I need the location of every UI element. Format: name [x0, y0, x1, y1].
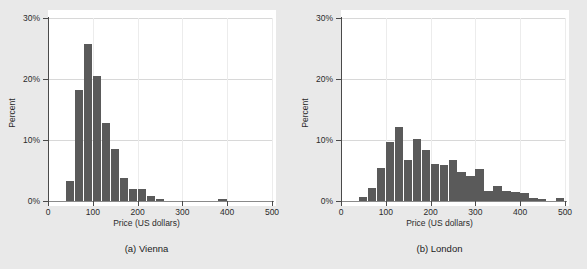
histogram-bar: [422, 150, 430, 201]
plot-area: [48, 18, 272, 201]
histogram-bar: [466, 176, 474, 201]
panel-caption: (a) Vienna: [0, 243, 293, 254]
histogram-bar: [129, 189, 137, 201]
histogram-bar: [457, 172, 465, 201]
y-axis-line: [48, 17, 49, 202]
x-tick-label: 400: [220, 207, 234, 217]
histogram-bar: [111, 149, 119, 201]
histogram-bar: [84, 44, 92, 201]
histogram-bar: [440, 165, 448, 201]
histogram-bar: [75, 90, 83, 201]
histogram-bar: [449, 160, 457, 201]
histogram-bar: [502, 191, 510, 201]
histogram-bars: [48, 18, 272, 201]
x-tick-label: 200: [424, 207, 438, 217]
figure-histograms: 0%10%20%30%0100200300400500 Percent Pric…: [0, 0, 587, 269]
histogram-bar: [93, 76, 101, 201]
plot-london: 0%10%20%30%0100200300400500 Percent Pric…: [293, 0, 586, 232]
histogram-bar: [431, 164, 439, 201]
histogram-bars: [341, 18, 565, 201]
panel-vienna: 0%10%20%30%0100200300400500 Percent Pric…: [0, 0, 293, 269]
x-tick-label: 400: [513, 207, 527, 217]
y-tick-label: 30%: [307, 13, 333, 23]
grid-line-vertical: [565, 18, 566, 201]
y-tick-label: 30%: [14, 13, 40, 23]
x-axis-title: Price (US dollars): [293, 218, 586, 228]
histogram-bar: [511, 192, 519, 201]
y-tick-label: 10%: [14, 135, 40, 145]
histogram-bar: [368, 188, 376, 201]
histogram-bar: [66, 181, 74, 201]
histogram-bar: [493, 186, 501, 201]
histogram-bar: [404, 160, 412, 201]
histogram-bar: [102, 123, 110, 201]
x-tick-label: 0: [339, 207, 344, 217]
x-axis-line: [47, 201, 274, 202]
x-tick-label: 300: [468, 207, 482, 217]
x-tick-label: 100: [379, 207, 393, 217]
histogram-bar: [386, 142, 394, 201]
histogram-bar: [395, 127, 403, 201]
histogram-bar: [138, 189, 146, 201]
x-tick-label: 200: [131, 207, 145, 217]
grid-line-vertical: [272, 18, 273, 201]
x-tick-label: 500: [265, 207, 279, 217]
panel-caption: (b) London: [293, 243, 586, 254]
y-tick-label: 10%: [307, 135, 333, 145]
plot-vienna: 0%10%20%30%0100200300400500 Percent Pric…: [0, 0, 293, 232]
y-tick-label: 20%: [14, 74, 40, 84]
y-tick-label: 20%: [307, 74, 333, 84]
histogram-bar: [377, 168, 385, 201]
histogram-bar: [484, 191, 492, 201]
x-tick-label: 300: [175, 207, 189, 217]
x-axis-line: [340, 201, 567, 202]
histogram-bar: [520, 193, 528, 201]
plot-area: [341, 18, 565, 201]
y-tick-label: 0%: [307, 196, 333, 206]
x-axis-title: Price (US dollars): [0, 218, 293, 228]
panel-london: 0%10%20%30%0100200300400500 Percent Pric…: [293, 0, 586, 269]
x-tick-label: 0: [46, 207, 51, 217]
histogram-bar: [120, 178, 128, 201]
y-axis-title: Percent: [7, 73, 17, 153]
y-axis-line: [341, 17, 342, 202]
y-axis-title: Percent: [300, 73, 310, 153]
x-tick-label: 100: [86, 207, 100, 217]
x-tick-label: 500: [558, 207, 572, 217]
y-tick-label: 0%: [14, 196, 40, 206]
histogram-bar: [475, 169, 483, 201]
histogram-bar: [413, 139, 421, 201]
